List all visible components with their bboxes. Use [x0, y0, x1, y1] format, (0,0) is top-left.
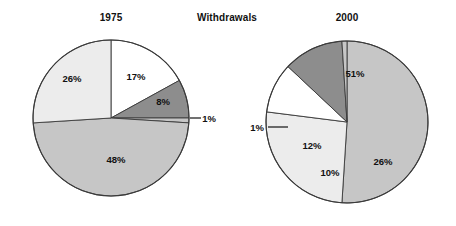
slice-label: 1%: [202, 113, 216, 124]
slice-label: 51%: [345, 68, 364, 79]
pie-chart-1975: [33, 40, 189, 196]
pie-slice: [342, 41, 428, 203]
chart-title-1975: 1975: [100, 12, 123, 23]
slice-label: 26%: [373, 156, 392, 167]
slice-label: 26%: [62, 73, 81, 84]
slice-label: 12%: [302, 140, 321, 151]
withdrawals-pie-figure: 1975 Withdrawals 2000 17%8%1%48%26%51%26…: [0, 0, 456, 226]
pie-slice: [266, 112, 347, 203]
slice-label: 17%: [126, 71, 145, 82]
chart-title-2000: 2000: [336, 12, 359, 23]
pie-chart-2000: [266, 41, 428, 203]
slice-label-outside: 1%: [250, 122, 264, 133]
slice-label: 48%: [106, 154, 125, 165]
pie-charts-svg: [0, 0, 456, 226]
slice-label: 8%: [156, 96, 170, 107]
slice-label: 10%: [320, 167, 339, 178]
figure-title: Withdrawals: [197, 12, 257, 23]
